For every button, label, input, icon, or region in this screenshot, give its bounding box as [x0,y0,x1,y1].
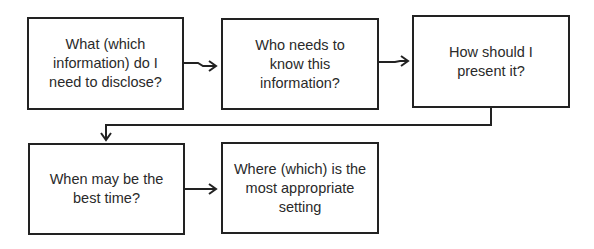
node-label: Where (which) is the most appropriate se… [231,160,369,217]
node-how: How should I present it? [412,15,570,108]
arrow-how-to-when [106,107,491,139]
node-label: What (which information) do I need to di… [37,35,174,92]
node-where: Where (which) is the most appropriate se… [221,142,379,234]
node-what: What (which information) do I need to di… [27,17,184,110]
node-label: How should I present it? [441,43,541,81]
arrow-who-to-how [379,61,407,62]
node-who: Who needs to know this information? [221,18,379,110]
arrow-what-to-who [183,63,215,66]
node-label: When may be the best time? [42,170,172,208]
node-when: When may be the best time? [28,143,185,235]
node-label: Who needs to know this information? [245,36,355,93]
